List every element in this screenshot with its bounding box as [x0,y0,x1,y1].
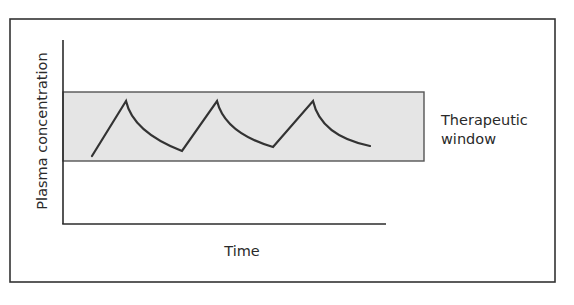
therapeutic-window-label-line2: window [441,131,496,147]
y-axis-label: Plasma concentration [34,52,50,209]
figure: Plasma concentration Time Therapeutic wi… [0,0,574,305]
x-axis-label: Time [223,243,260,259]
therapeutic-window-band [63,92,424,161]
therapeutic-window-label-line1: Therapeutic [440,112,528,128]
